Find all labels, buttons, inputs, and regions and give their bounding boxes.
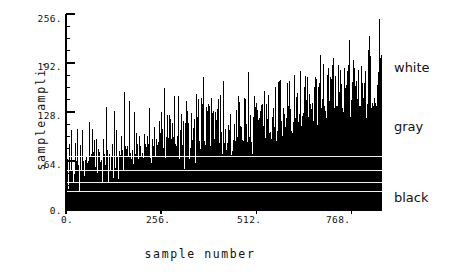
annotation-black: black: [394, 190, 429, 205]
y-tick-label: 0.: [16, 206, 62, 216]
annotation-white: white: [394, 60, 430, 75]
y-tick-label: 192.: [16, 62, 62, 72]
chart-figure: sample ampli. 256. 192. 128. 64. 0. 0. 2…: [0, 0, 453, 272]
y-tick-label: 128.: [16, 111, 62, 121]
x-tick-label: 256.: [146, 214, 170, 225]
data-trace: [67, 19, 382, 210]
annotation-gray: gray: [394, 119, 423, 134]
x-tick-label: 768.: [326, 214, 350, 225]
x-axis-title: sample number: [0, 247, 400, 261]
y-tick-label-group: 256. 192. 128. 64. 0.: [12, 0, 62, 272]
y-tick-label: 256.: [16, 14, 62, 24]
x-tick-label: 0.: [61, 214, 73, 225]
plot-canvas: [0, 0, 453, 272]
y-tick-label: 64.: [16, 160, 62, 170]
x-tick-label: 512.: [237, 214, 261, 225]
